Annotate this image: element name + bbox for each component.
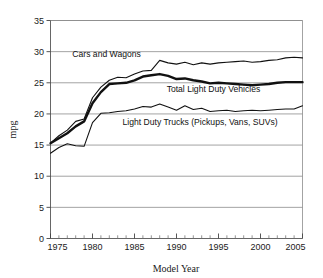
series-annotation-1: Total Light Duty Vehicles [167,84,261,94]
y-tick-label-0: 0 [39,234,44,244]
chart-background [0,0,323,278]
x-axis-tick-labels: 1975198019851990199520002005 [48,242,306,252]
x-tick-label-1975: 1975 [48,242,68,252]
y-tick-label-30: 30 [34,47,44,57]
x-axis-title: Model Year [153,263,200,274]
x-tick-label-1980: 1980 [82,242,102,252]
series-annotation-2: Light Duty Trucks (Pickups, Vans, SUVs) [122,117,277,127]
y-tick-label-25: 25 [34,78,44,88]
x-tick-label-1985: 1985 [124,242,144,252]
x-tick-label-2005: 2005 [285,242,305,252]
chart-canvas: 05101520253035 1975198019851990199520002… [0,0,323,278]
y-axis-title: mpg [7,121,18,139]
y-tick-label-20: 20 [34,109,44,119]
x-tick-label-1990: 1990 [166,242,186,252]
y-tick-label-5: 5 [39,203,44,213]
mpg-trend-chart: 05101520253035 1975198019851990199520002… [0,0,323,278]
x-tick-label-1995: 1995 [208,242,228,252]
y-tick-label-35: 35 [34,16,44,26]
y-tick-label-10: 10 [34,171,44,181]
x-tick-label-2000: 2000 [250,242,270,252]
y-tick-label-15: 15 [34,140,44,150]
series-annotation-0: Cars and Wagons [72,49,140,59]
